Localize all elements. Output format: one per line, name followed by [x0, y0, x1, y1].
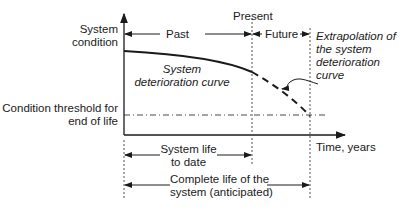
- extrapolation-callout: [282, 79, 318, 89]
- life-to-date-label: System lifeto date: [160, 143, 217, 169]
- threshold-label: Condition threshold forend of life: [2, 102, 118, 128]
- past-label: Past: [166, 28, 189, 41]
- y-axis-label: Systemcondition: [72, 23, 118, 49]
- future-label: Future: [265, 28, 298, 41]
- present-label: Present: [233, 10, 273, 23]
- extrapolation-label: Extrapolation ofthe systemdeteriorationc…: [316, 30, 396, 82]
- complete-life-label: Complete life of thesystem (anticipated): [170, 173, 267, 199]
- curve-label: Systemdeterioration curve: [132, 63, 232, 89]
- x-axis-label: Time, years: [316, 141, 376, 154]
- extrapolation-curve: [252, 72, 310, 116]
